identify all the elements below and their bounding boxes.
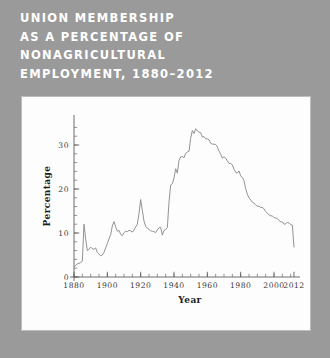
x-tick-label: 1980 bbox=[230, 281, 251, 290]
y-axis-title: Percentage bbox=[42, 166, 52, 227]
x-tick-label: 2000 bbox=[263, 281, 284, 290]
x-axis-tick-labels: 18801900192019401960198020002012 bbox=[63, 281, 304, 290]
y-tick-label: 20 bbox=[58, 185, 69, 194]
y-tick-label: 10 bbox=[58, 229, 69, 238]
x-tick-label: 1880 bbox=[63, 281, 84, 290]
x-axis-minor-ticks bbox=[74, 274, 291, 277]
figure-container: UNION MEMBERSHIP AS A PERCENTAGE OF NONA… bbox=[0, 0, 330, 358]
x-axis-major-ticks bbox=[74, 272, 294, 277]
y-tick-label: 0 bbox=[64, 273, 69, 282]
x-tick-label: 2012 bbox=[283, 281, 304, 290]
x-tick-label: 1900 bbox=[97, 281, 118, 290]
data-series-line bbox=[74, 129, 294, 267]
y-axis-major-ticks bbox=[74, 145, 79, 277]
y-axis-minor-ticks bbox=[74, 127, 77, 277]
y-axis-tick-labels: 0102030 bbox=[58, 141, 69, 282]
line-chart: 18801900192019401960198020002012 0102030… bbox=[22, 97, 310, 330]
figure-title: UNION MEMBERSHIP AS A PERCENTAGE OF NONA… bbox=[20, 9, 310, 83]
x-tick-label: 1960 bbox=[197, 281, 218, 290]
x-tick-label: 1920 bbox=[130, 281, 151, 290]
y-tick-label: 30 bbox=[58, 141, 69, 150]
x-tick-label: 1940 bbox=[163, 281, 184, 290]
x-axis-title: Year bbox=[177, 295, 202, 305]
chart-panel: 18801900192019401960198020002012 0102030… bbox=[22, 97, 310, 330]
